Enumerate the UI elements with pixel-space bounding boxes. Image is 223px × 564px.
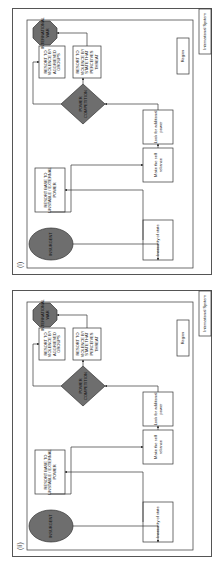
additional-power-label-line: power bbox=[158, 121, 163, 133]
insurgent-label-line: INSURGENT bbox=[48, 514, 53, 538]
additional-power-label-line: power bbox=[158, 403, 163, 415]
insurgent-label-line: INSURGENT bbox=[48, 232, 53, 256]
power-competition-label-line: COMPETITION bbox=[83, 372, 88, 400]
connector-arrow bbox=[57, 315, 87, 328]
international-system-label: International System bbox=[202, 13, 207, 50]
panel-id-label: (ii) bbox=[16, 542, 24, 550]
international-system-label-line: International System bbox=[202, 295, 207, 332]
region-label-line: Region bbox=[180, 50, 185, 63]
panel-id-label: (i) bbox=[16, 262, 24, 268]
violence-state-label-line: THREAT bbox=[94, 54, 99, 70]
flowchart-panel: (i)International SystemRegionINSURGENTRE… bbox=[12, 8, 212, 275]
international-system-label: International System bbox=[202, 295, 207, 332]
region-label-line: Region bbox=[180, 332, 185, 345]
violence-groups-label-line: GROUPS bbox=[56, 53, 61, 71]
flowchart-panel: (ii)International SystemRegionINSURGENTR… bbox=[12, 290, 212, 557]
connector-arrow bbox=[65, 472, 143, 522]
region-label: Region bbox=[180, 332, 185, 345]
connector-arrow bbox=[57, 33, 87, 46]
international-war-label-line: WAR bbox=[45, 28, 50, 37]
self-reliance-label-line: reliance bbox=[158, 439, 163, 454]
flowchart-panel-2: (ii)International SystemRegionINSURGENTR… bbox=[12, 290, 212, 557]
resort-external-power-label-line: POWER bbox=[52, 182, 57, 197]
connector-arrow bbox=[105, 386, 158, 392]
connector-arrow bbox=[105, 104, 158, 110]
resort-external-power-label-line: POWER bbox=[52, 464, 57, 479]
international-system-label-line: International System bbox=[202, 13, 207, 50]
connector-arrow bbox=[65, 190, 143, 240]
insurgent-label: INSURGENT bbox=[48, 232, 53, 256]
violence-groups-label-line: GROUPS bbox=[56, 335, 61, 353]
violence-state-label-line: THREAT bbox=[94, 336, 99, 352]
self-reliance-label-line: reliance bbox=[158, 157, 163, 172]
international-war-label-line: WAR bbox=[45, 310, 50, 319]
power-competition-label-line: COMPETITION bbox=[83, 90, 88, 118]
flowchart-panel-1: (i)International SystemRegionINSURGENTRE… bbox=[12, 8, 212, 275]
insurgent-label: INSURGENT bbox=[48, 514, 53, 538]
region-label: Region bbox=[180, 50, 185, 63]
